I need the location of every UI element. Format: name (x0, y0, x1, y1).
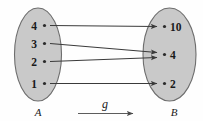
set-a-item-dot-3 (43, 82, 46, 85)
set-b-item-label-1: 4 (170, 49, 176, 61)
set-b-item-dot-1 (163, 53, 166, 56)
mapping-diagram-figure: 4 3 2 1 10 4 2 A B g (0, 0, 203, 121)
set-a-item-dot-1 (43, 42, 46, 45)
set-b-item-label-0: 10 (170, 21, 182, 33)
arrow-3-to-4 (50, 44, 157, 53)
set-a-ellipse (15, 8, 62, 101)
set-b-item-dot-2 (163, 82, 166, 85)
set-b-name-label: B (171, 106, 178, 118)
set-b-item-label-2: 2 (170, 78, 176, 90)
set-a-item-label-2: 2 (31, 56, 37, 68)
set-b-item-dot-0 (163, 25, 166, 28)
set-a-item-label-1: 3 (31, 38, 37, 50)
set-a-item-label-0: 4 (31, 20, 37, 32)
set-a-item-label-3: 1 (31, 78, 37, 90)
mapping-arrows (50, 26, 157, 84)
arrow-4-to-10 (50, 26, 157, 27)
arrow-2-to-4 (50, 58, 157, 62)
set-a-item-dot-2 (43, 60, 46, 63)
function-name-label: g (102, 97, 108, 111)
diagram-canvas: 4 3 2 1 10 4 2 A B g (0, 0, 203, 121)
set-a-item-dot-0 (43, 24, 46, 27)
set-a-name-label: A (34, 106, 42, 118)
